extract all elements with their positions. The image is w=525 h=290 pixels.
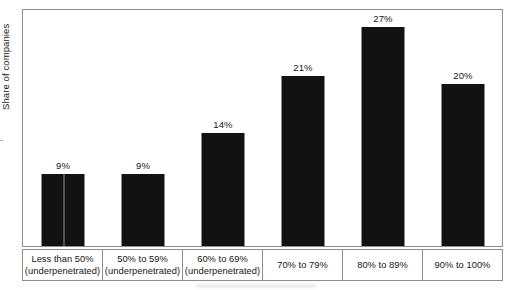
scan-edge-mark xyxy=(0,140,3,141)
bar-slot-3: 14% xyxy=(183,10,263,246)
bar-6[interactable] xyxy=(442,84,485,246)
bar-1[interactable] xyxy=(42,174,85,246)
bar-value-label-1: 9% xyxy=(56,160,70,171)
bar-chart-figure: Share of companies 9% 9% 14% 21% 27% 20% xyxy=(0,0,525,290)
x-axis-label-1-line2: (underpenetrated) xyxy=(25,265,100,277)
x-axis-label-4: 70% to 79% xyxy=(263,250,343,280)
bar-value-label-2: 9% xyxy=(136,160,150,171)
x-axis-label-3-line2: (underpenetrated) xyxy=(185,265,260,277)
x-axis-label-2-line1: 50% to 59% xyxy=(117,253,168,265)
x-axis-label-4-line1: 70% to 79% xyxy=(277,259,328,271)
x-axis-label-3-line1: 60% to 69% xyxy=(197,253,248,265)
bar-slot-5: 27% xyxy=(343,10,423,246)
bar-slot-1: 9% xyxy=(23,10,103,246)
x-axis-label-6-line1: 90% to 100% xyxy=(435,259,491,271)
bar-value-label-5: 27% xyxy=(373,13,392,24)
bar-3[interactable] xyxy=(202,133,245,246)
x-axis-label-5-line1: 80% to 89% xyxy=(357,259,408,271)
x-axis-label-2: 50% to 59% (underpenetrated) xyxy=(103,250,183,280)
bar-slot-6: 20% xyxy=(423,10,503,246)
bar-slot-4: 21% xyxy=(263,10,343,246)
bar-value-label-3: 14% xyxy=(213,119,232,130)
bar-5[interactable] xyxy=(362,27,405,246)
bar-value-label-4: 21% xyxy=(293,62,312,73)
x-axis-label-3: 60% to 69% (underpenetrated) xyxy=(183,250,263,280)
x-axis-label-1: Less than 50% (underpenetrated) xyxy=(23,250,103,280)
bar-4[interactable] xyxy=(282,76,325,246)
bar-slot-2: 9% xyxy=(103,10,183,246)
bar-value-label-6: 20% xyxy=(453,70,472,81)
scan-smudge xyxy=(196,284,316,288)
x-axis-label-row: Less than 50% (underpenetrated) 50% to 5… xyxy=(22,249,503,281)
x-axis-label-2-line2: (underpenetrated) xyxy=(105,265,180,277)
y-axis-title: Share of companies xyxy=(0,0,14,110)
x-axis-label-5: 80% to 89% xyxy=(343,250,423,280)
x-axis-label-6: 90% to 100% xyxy=(423,250,502,280)
plot-area: 9% 9% 14% 21% 27% 20% xyxy=(22,9,503,247)
bar-2[interactable] xyxy=(122,174,165,246)
x-axis-label-1-line1: Less than 50% xyxy=(31,253,93,265)
